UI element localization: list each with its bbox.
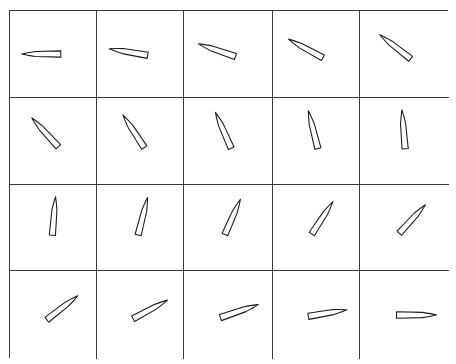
dagger-blade [109,46,149,59]
dagger-icon [120,113,147,149]
grid-cell-15 [360,185,449,271]
dagger-blade [399,110,408,149]
dagger-icon [132,297,169,321]
dagger-graphic [10,271,96,359]
dagger-graphic [184,271,272,359]
dagger-blade [308,307,348,320]
dagger-icon [197,41,236,60]
dagger-icon [308,307,348,320]
dagger-graphic [184,11,272,97]
dagger-graphic [360,271,449,359]
dagger-icon [49,196,58,235]
dagger-icon [378,32,413,61]
dagger-icon [45,293,80,322]
grid-cell-17 [97,271,184,359]
grid-cell-12 [97,185,184,271]
dagger-graphic [273,11,359,97]
dagger-icon [397,312,437,318]
dagger-graphic [273,185,359,270]
dagger-blade [197,41,236,60]
dagger-blade [30,116,61,149]
dagger-icon [399,110,408,149]
dagger-icon [30,116,61,149]
dagger-icon [305,110,321,149]
dagger-blade [213,111,234,149]
dagger-icon [219,302,259,321]
grid-cell-19 [273,271,360,359]
grid-cell-11 [10,185,97,271]
dagger-blade [45,293,80,322]
dagger-icon [135,197,150,236]
dagger-graphic [360,185,449,270]
dagger-graphic [97,11,183,97]
grid-cell-5 [360,11,449,98]
dagger-graphic [97,98,183,184]
dagger-blade [120,113,147,149]
dagger-graphic [184,185,272,270]
dagger-graphic [273,98,359,184]
grid-cell-14 [273,185,360,271]
dagger-icon [109,46,149,59]
dagger-blade [222,198,243,236]
dagger-icon [213,111,234,149]
dagger-icon [22,51,61,57]
dagger-blade [287,36,324,60]
dagger-graphic [184,98,272,184]
dagger-graphic [273,271,359,359]
dagger-graphic [360,98,449,184]
dagger-icon [309,200,335,236]
grid-cell-13 [184,185,273,271]
dagger-blade [305,110,321,149]
dagger-graphic [10,11,96,97]
dagger-blade [22,51,61,57]
dagger-graphic [97,185,183,270]
grid-cell-3 [184,11,273,98]
dagger-graphic [97,271,183,359]
dagger-rotation-grid [9,10,448,358]
dagger-icon [287,36,324,60]
grid-cell-9 [273,98,360,185]
grid-cell-10 [360,98,449,185]
grid-cell-16 [10,271,97,359]
dagger-blade [397,203,428,236]
dagger-graphic [10,185,96,270]
dagger-icon [397,203,428,236]
dagger-graphic [10,98,96,184]
grid-cell-20 [360,271,449,359]
dagger-blade [219,302,259,321]
dagger-blade [309,200,335,236]
dagger-blade [49,196,58,235]
dagger-blade [397,312,437,318]
dagger-blade [135,197,150,236]
dagger-blade [378,32,413,61]
grid-cell-7 [97,98,184,185]
grid-cell-18 [184,271,273,359]
dagger-graphic [360,11,449,97]
grid-cell-1 [10,11,97,98]
grid-cell-4 [273,11,360,98]
grid-cell-6 [10,98,97,185]
grid-cell-2 [97,11,184,98]
dagger-icon [222,198,243,236]
grid-cell-8 [184,98,273,185]
dagger-blade [132,297,169,321]
